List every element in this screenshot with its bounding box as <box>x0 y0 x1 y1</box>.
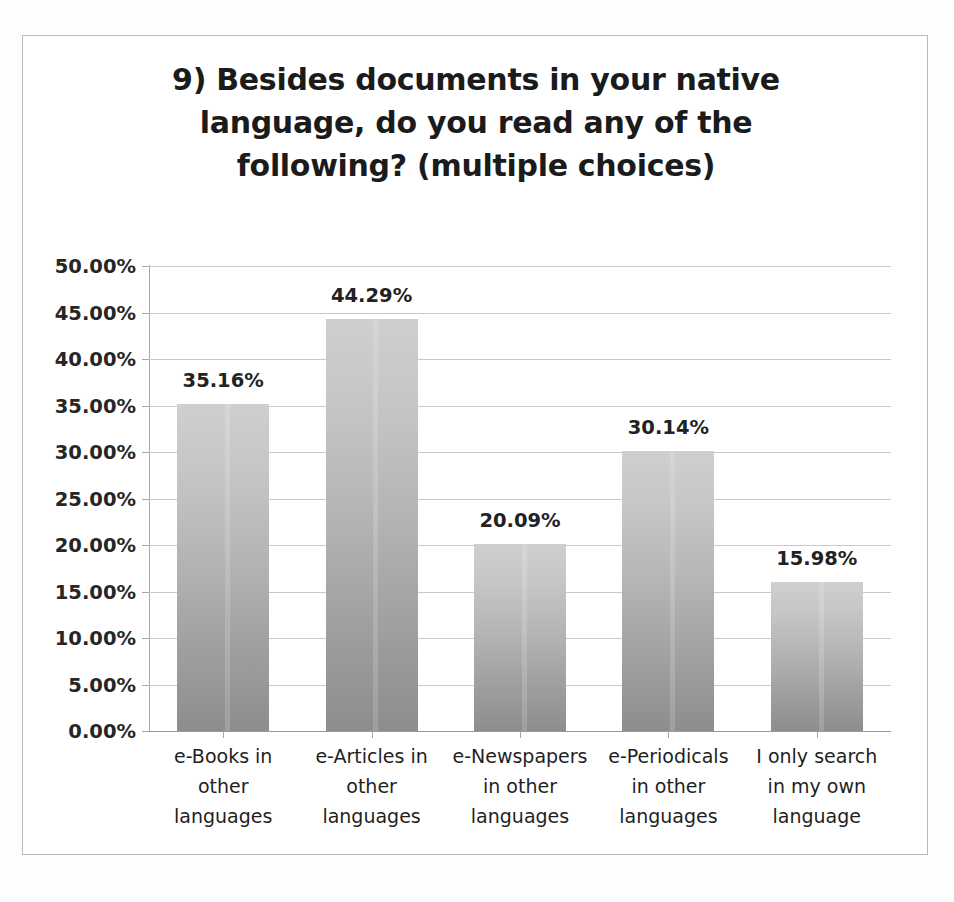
y-axis-tick-mark <box>142 638 149 639</box>
y-axis-tick-label: 25.00% <box>55 487 136 510</box>
x-axis-category-label-line: languages <box>594 801 742 831</box>
x-axis-tick-mark <box>520 731 521 738</box>
bar-value-label: 44.29% <box>331 284 412 307</box>
bar[interactable] <box>326 319 418 731</box>
x-axis-category-label: e-Articles inotherlanguages <box>297 741 445 831</box>
x-axis-category-label-line: e-Articles in <box>297 741 445 771</box>
x-axis-category-label-line: languages <box>446 801 594 831</box>
x-axis-category-label-line: e-Books in <box>149 741 297 771</box>
y-axis-tick-mark <box>142 685 149 686</box>
x-axis-category-label-line: I only search <box>743 741 891 771</box>
y-axis-tick-label: 0.00% <box>68 720 136 743</box>
y-axis-tick-label: 5.00% <box>68 673 136 696</box>
y-axis-tick-mark <box>142 731 149 732</box>
bar-slot: 44.29% <box>297 266 445 731</box>
x-axis-category-label-line: languages <box>297 801 445 831</box>
x-axis-category-labels: e-Books inotherlanguagese-Articles inoth… <box>149 741 891 851</box>
chart-title-line-2: language, do you read any of the <box>73 101 879 144</box>
y-axis-tick-label: 30.00% <box>55 441 136 464</box>
y-axis-tick-label: 15.00% <box>55 580 136 603</box>
y-axis-tick-mark <box>142 359 149 360</box>
x-axis-category-label-line: other <box>297 771 445 801</box>
x-axis-category-label: e-Newspapersin otherlanguages <box>446 741 594 831</box>
y-axis-tick-label: 20.00% <box>55 534 136 557</box>
x-axis-category-label-line: e-Periodicals <box>594 741 742 771</box>
x-axis-category-label-line: in other <box>594 771 742 801</box>
x-axis-category-label-line: languages <box>149 801 297 831</box>
chart-title-line-3: following? (multiple choices) <box>73 144 879 187</box>
y-axis-tick-mark <box>142 499 149 500</box>
bar-value-label: 20.09% <box>479 509 560 532</box>
bar[interactable] <box>622 451 714 731</box>
x-axis-category-label-line: e-Newspapers <box>446 741 594 771</box>
x-axis-category-label: e-Books inotherlanguages <box>149 741 297 831</box>
y-axis-tick-mark <box>142 545 149 546</box>
y-axis-tick-label: 45.00% <box>55 301 136 324</box>
x-axis-category-label-line: other <box>149 771 297 801</box>
x-axis-category-label-line: language <box>743 801 891 831</box>
y-axis-tick-label: 40.00% <box>55 348 136 371</box>
bar-series: 35.16%44.29%20.09%30.14%15.98% <box>149 266 891 731</box>
x-axis-tick-mark <box>668 731 669 738</box>
x-axis-category-label: I only searchin my ownlanguage <box>743 741 891 831</box>
bar-slot: 30.14% <box>594 266 742 731</box>
x-axis-tick-mark <box>817 731 818 738</box>
chart-frame: 9) Besides documents in your native lang… <box>22 35 928 855</box>
bar-slot: 35.16% <box>149 266 297 731</box>
chart-title-line-1: 9) Besides documents in your native <box>73 58 879 101</box>
y-axis-tick-mark <box>142 266 149 267</box>
bar-slot: 20.09% <box>446 266 594 731</box>
bar-value-label: 35.16% <box>183 369 264 392</box>
y-axis-tick-mark <box>142 452 149 453</box>
bar-slot: 15.98% <box>743 266 891 731</box>
y-axis-tick-label: 35.00% <box>55 394 136 417</box>
plot-area: 50.00%45.00%40.00%35.00%30.00%25.00%20.0… <box>149 266 891 731</box>
bar[interactable] <box>177 404 269 731</box>
bar-value-label: 30.14% <box>628 416 709 439</box>
bar[interactable] <box>771 582 863 731</box>
x-axis-tick-mark <box>372 731 373 738</box>
y-axis-tick-label: 10.00% <box>55 627 136 650</box>
chart-title: 9) Besides documents in your native lang… <box>73 58 879 187</box>
y-axis-tick-mark <box>142 592 149 593</box>
y-axis-tick-mark <box>142 313 149 314</box>
y-axis-tick-mark <box>142 406 149 407</box>
x-axis-category-label: e-Periodicalsin otherlanguages <box>594 741 742 831</box>
x-axis-category-label-line: in my own <box>743 771 891 801</box>
x-axis-tick-mark <box>223 731 224 738</box>
bar-value-label: 15.98% <box>776 547 857 570</box>
y-axis-tick-label: 50.00% <box>55 255 136 278</box>
x-axis-category-label-line: in other <box>446 771 594 801</box>
bar[interactable] <box>474 544 566 731</box>
